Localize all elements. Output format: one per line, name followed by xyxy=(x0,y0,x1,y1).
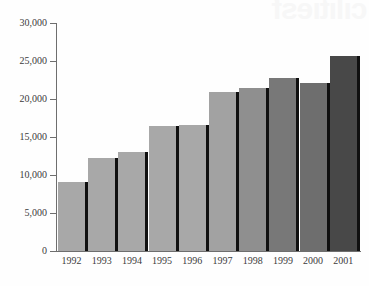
bar-body xyxy=(149,126,176,251)
x-axis-label-2000: 2000 xyxy=(297,255,330,267)
bar-1995 xyxy=(149,126,176,251)
x-axis-label-1994: 1994 xyxy=(115,255,148,267)
x-axis-label-1996: 1996 xyxy=(176,255,209,267)
bar-1992 xyxy=(58,182,85,251)
bar-body xyxy=(88,158,115,251)
bar-body xyxy=(330,56,357,251)
x-axis-label-1997: 1997 xyxy=(206,255,239,267)
bars-layer xyxy=(0,0,369,286)
bar-body xyxy=(269,78,296,251)
bar-chart: cilitiesf 05,00010,00015,00020,00025,000… xyxy=(0,0,369,286)
x-axis-label-1995: 1995 xyxy=(146,255,179,267)
bar-body xyxy=(300,83,327,251)
x-axis-label-1993: 1993 xyxy=(85,255,118,267)
bar-1993 xyxy=(88,158,115,251)
x-axis-label-2001: 2001 xyxy=(327,255,360,267)
x-axis-label-1998: 1998 xyxy=(236,255,269,267)
bar-shadow-edge xyxy=(357,56,360,251)
bar-1996 xyxy=(179,125,206,251)
bar-1998 xyxy=(239,88,266,251)
plot-area: 05,00010,00015,00020,00025,00030,000 199… xyxy=(0,0,369,286)
bar-2001 xyxy=(330,56,357,251)
bar-1997 xyxy=(209,92,236,251)
bar-body xyxy=(58,182,85,251)
x-axis-label-1999: 1999 xyxy=(266,255,299,267)
bar-body xyxy=(179,125,206,251)
bar-1994 xyxy=(118,152,145,251)
bar-2000 xyxy=(300,83,327,251)
bar-body xyxy=(209,92,236,251)
bar-1999 xyxy=(269,78,296,251)
bar-body xyxy=(239,88,266,251)
bar-body xyxy=(118,152,145,251)
x-axis-label-1992: 1992 xyxy=(55,255,88,267)
